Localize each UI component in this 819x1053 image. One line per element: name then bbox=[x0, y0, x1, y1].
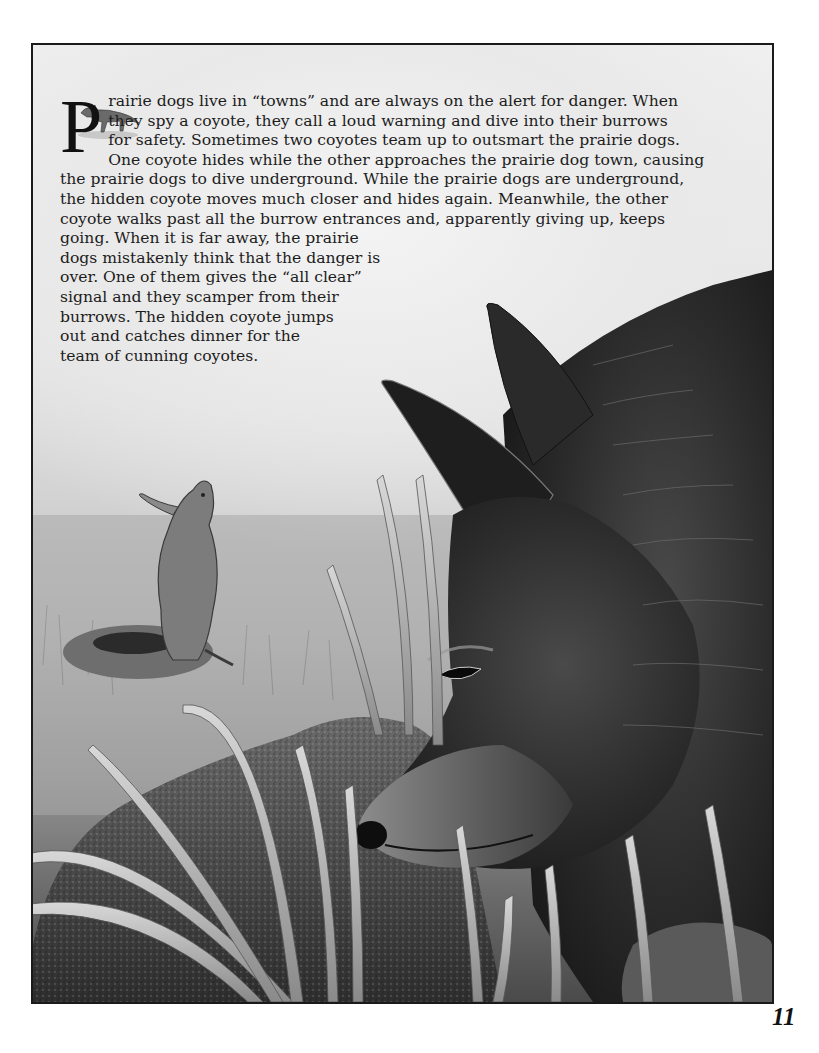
paragraph-line: rairie dogs live in “towns” and are alwa… bbox=[60, 92, 760, 112]
paragraph-line: coyote walks past all the burrow entranc… bbox=[60, 210, 760, 230]
paragraph-line: over. One of them gives the “all clear” bbox=[60, 268, 760, 288]
paragraph-line: the prairie dogs to dive underground. Wh… bbox=[60, 170, 760, 190]
paragraph-line: out and catches dinner for the bbox=[60, 327, 760, 347]
paragraph-line: One coyote hides while the other approac… bbox=[60, 151, 760, 171]
paragraph-line: team of cunning coyotes. bbox=[60, 347, 760, 367]
burrow-hole bbox=[93, 632, 173, 654]
story-paragraph: P rairie dogs live in “towns” and are al… bbox=[60, 92, 760, 366]
paragraph-line: the hidden coyote moves much closer and … bbox=[60, 190, 760, 210]
paragraph-line: burrows. The hidden coyote jumps bbox=[60, 308, 760, 328]
page-number: 11 bbox=[772, 1003, 796, 1031]
paragraph-line: going. When it is far away, the prairie bbox=[60, 229, 760, 249]
coyote-nose bbox=[355, 821, 387, 849]
paragraph-line: dogs mistakenly think that the danger is bbox=[60, 249, 760, 269]
drop-cap: P bbox=[60, 96, 102, 156]
paragraph-line: they spy a coyote, they call a loud warn… bbox=[60, 112, 760, 132]
paragraph-line: signal and they scamper from their bbox=[60, 288, 760, 308]
paragraph-line: for safety. Sometimes two coyotes team u… bbox=[60, 131, 760, 151]
